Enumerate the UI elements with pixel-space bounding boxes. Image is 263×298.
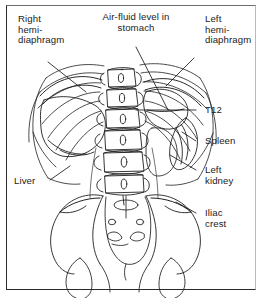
anatomy-figure: Right hemi- diaphragm Air-fluid level in… — [0, 0, 263, 298]
sacrum — [105, 196, 151, 280]
leader-iliac-crest — [176, 202, 196, 213]
label-left-kidney: Left kidney — [205, 165, 233, 186]
label-air-fluid-level: Air-fluid level in stomach — [90, 12, 182, 33]
label-right-hemidiaphragm: Right hemi- diaphragm — [18, 14, 64, 46]
left-kidney-outline — [146, 128, 177, 176]
leader-liver — [50, 166, 70, 180]
spleen-shadow — [170, 118, 198, 170]
label-left-hemidiaphragm: Left hemi- diaphragm — [205, 14, 251, 46]
liver-shadow — [40, 97, 105, 157]
label-t12: T12 — [205, 105, 222, 116]
pelvis — [51, 195, 201, 274]
label-liver: Liver — [14, 176, 35, 187]
label-spleen: Spleen — [205, 136, 235, 147]
label-iliac-crest: Iliac crest — [205, 208, 226, 229]
